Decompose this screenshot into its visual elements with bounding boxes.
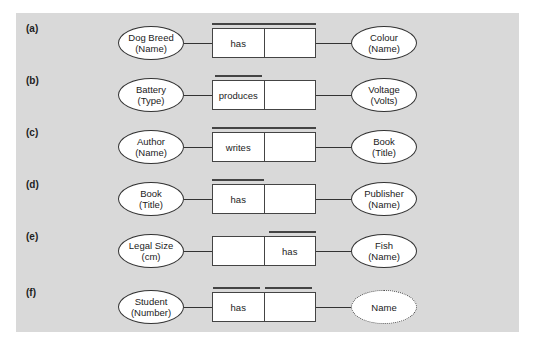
entity-ref: (Name) xyxy=(368,251,400,262)
role-2: has xyxy=(264,237,316,265)
entity-book: Book(Title) xyxy=(118,182,184,216)
connector-line xyxy=(184,147,213,148)
entity-ref: (Type) xyxy=(136,95,166,106)
connector-line xyxy=(184,199,213,200)
uniqueness-constraint xyxy=(215,75,262,77)
entity-voltage: Voltage(Volts) xyxy=(351,78,417,112)
uniqueness-constraint xyxy=(212,179,264,181)
entity-name: Publisher xyxy=(364,188,404,199)
entity-publisher: Publisher(Name) xyxy=(351,182,417,216)
uniqueness-constraint xyxy=(212,23,316,25)
row-label: (f) xyxy=(26,287,36,298)
row-label: (a) xyxy=(26,23,38,34)
uniqueness-constraint xyxy=(269,231,316,233)
entity-dog-breed: Dog Breed(Name) xyxy=(118,26,184,60)
entity-book: Book(Title) xyxy=(351,130,417,164)
role-1: has xyxy=(213,185,264,213)
role-2 xyxy=(264,133,316,161)
role-2 xyxy=(264,293,316,321)
value-type-name: Name xyxy=(351,290,417,324)
entity-name: Voltage xyxy=(368,84,400,95)
entity-name: Colour xyxy=(368,32,400,43)
fact-row-a: (a) Dog Breed(Name) has Colour(Name) xyxy=(0,23,535,63)
entity-ref: (Volts) xyxy=(368,95,400,106)
role-1: has xyxy=(213,29,264,57)
entity-author: Author(Name) xyxy=(118,130,184,164)
role-2 xyxy=(264,29,316,57)
fact-row-c: (c) Author(Name) writes Book(Title) xyxy=(0,127,535,167)
entity-ref: (Number) xyxy=(131,307,171,318)
row-label: (e) xyxy=(26,231,38,242)
entity-name: Dog Breed xyxy=(128,32,173,43)
role-2 xyxy=(264,81,316,109)
role-1: produces xyxy=(213,81,264,109)
fact-row-d: (d) Book(Title) has Publisher(Name) xyxy=(0,179,535,219)
fact-type-box: produces xyxy=(212,80,316,110)
connector-line xyxy=(316,95,352,96)
entity-ref: (Name) xyxy=(135,147,167,158)
entity-name: Book xyxy=(372,136,396,147)
fact-type-box: has xyxy=(212,236,316,266)
entity-name: Fish xyxy=(368,240,400,251)
uniqueness-constraint xyxy=(213,287,260,289)
fact-type-box: has xyxy=(212,184,316,214)
entity-battery: Battery(Type) xyxy=(118,78,184,112)
connector-line xyxy=(316,147,352,148)
row-label: (c) xyxy=(26,127,38,138)
entity-name: Battery xyxy=(136,84,166,95)
entity-ref: (Name) xyxy=(368,43,400,54)
entity-ref: (Name) xyxy=(128,43,173,54)
entity-fish: Fish(Name) xyxy=(351,234,417,268)
role-2 xyxy=(264,185,316,213)
role-1 xyxy=(213,237,264,265)
fact-row-e: (e) Legal Size(cm) has Fish(Name) xyxy=(0,231,535,271)
uniqueness-constraint xyxy=(212,127,316,129)
connector-line xyxy=(316,307,352,308)
entity-ref: (Title) xyxy=(139,199,163,210)
entity-ref: (Name) xyxy=(364,199,404,210)
role-1: writes xyxy=(213,133,264,161)
connector-line xyxy=(184,251,213,252)
fact-row-b: (b) Battery(Type) produces Voltage(Volts… xyxy=(0,75,535,115)
fact-type-box: writes xyxy=(212,132,316,162)
connector-line xyxy=(316,43,352,44)
entity-name: Book xyxy=(139,188,163,199)
role-1: has xyxy=(213,293,264,321)
entity-student: Student(Number) xyxy=(118,290,184,324)
connector-line xyxy=(184,307,213,308)
fact-row-f: (f) Student(Number) has Name xyxy=(0,287,535,327)
connector-line xyxy=(316,251,352,252)
entity-ref: (Title) xyxy=(372,147,396,158)
entity-name: Legal Size xyxy=(129,240,173,251)
fact-type-box: has xyxy=(212,28,316,58)
row-label: (b) xyxy=(26,75,39,86)
connector-line xyxy=(184,43,213,44)
row-label: (d) xyxy=(26,179,39,190)
entity-legal-size: Legal Size(cm) xyxy=(118,234,184,268)
entity-ref: (cm) xyxy=(129,251,173,262)
uniqueness-constraint xyxy=(265,287,312,289)
entity-name: Name xyxy=(371,302,396,313)
entity-name: Student xyxy=(131,296,171,307)
fact-type-box: has xyxy=(212,292,316,322)
connector-line xyxy=(184,95,213,96)
connector-line xyxy=(316,199,352,200)
entity-colour: Colour(Name) xyxy=(351,26,417,60)
entity-name: Author xyxy=(135,136,167,147)
